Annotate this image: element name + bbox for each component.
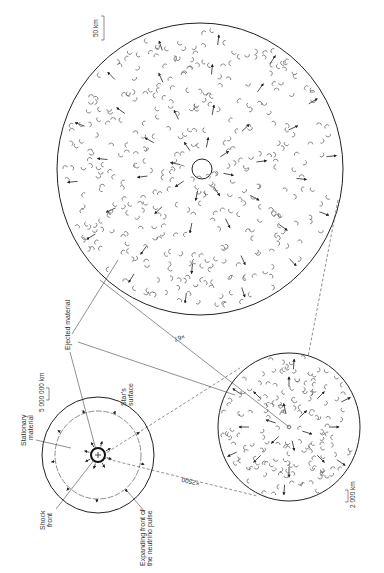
ejecta-blob-icon bbox=[271, 81, 276, 86]
ejecta-blob-icon bbox=[97, 107, 101, 112]
ejecta-blob-icon bbox=[302, 387, 305, 392]
ejecta-blob-icon bbox=[168, 106, 173, 108]
ejecta-blob-icon bbox=[324, 401, 328, 406]
ejecta-blob-icon bbox=[132, 286, 136, 291]
ejecta-blob-icon bbox=[163, 252, 167, 257]
arrow-icon bbox=[257, 84, 263, 92]
ejecta-blob-icon bbox=[297, 410, 302, 414]
ejecta-blob-icon bbox=[284, 127, 289, 132]
ejecta-blob-icon bbox=[272, 369, 277, 373]
ejecta-blob-icon bbox=[121, 92, 126, 97]
ejecta-blob-icon bbox=[340, 408, 344, 413]
ejecta-blob-icon bbox=[62, 165, 67, 169]
ejecta-blob-icon bbox=[320, 153, 325, 158]
ejecta-blob-icon bbox=[324, 124, 329, 129]
ejecta-blob-icon bbox=[278, 472, 283, 476]
ejecta-blob-icon bbox=[226, 402, 231, 406]
ejecta-blob-icon bbox=[134, 256, 138, 261]
arrow-icon bbox=[218, 35, 219, 45]
ejecta-blob-icon bbox=[324, 475, 329, 478]
ejecta-blob-icon bbox=[219, 294, 224, 299]
arrow-icon bbox=[141, 464, 144, 465]
ejecta-blob-icon bbox=[324, 369, 329, 373]
ejecta-blob-icon bbox=[209, 285, 214, 288]
ejecta-blob-icon bbox=[264, 409, 269, 413]
ejecta-blob-icon bbox=[325, 195, 330, 200]
ejecta-blob-icon bbox=[277, 235, 281, 240]
ejecta-blob-icon bbox=[257, 100, 262, 105]
arrow-icon bbox=[108, 72, 115, 79]
large-view: 50 km bbox=[57, 16, 343, 315]
ejecta-blob-icon bbox=[229, 428, 234, 432]
ejecta-blob-icon bbox=[81, 192, 85, 197]
ejecta-blob-icon bbox=[218, 74, 223, 79]
ejecta-blob-icon bbox=[341, 391, 346, 394]
scale-bar-50km: 50 km bbox=[92, 16, 104, 40]
ejecta-blob-icon bbox=[286, 244, 290, 249]
ejecta-blob-icon bbox=[289, 93, 294, 97]
ejecta-blob-icon bbox=[88, 94, 93, 97]
ejecta-blob-icon bbox=[289, 362, 294, 365]
ejecta-blob-icon bbox=[152, 206, 157, 211]
ejecta-blob-icon bbox=[272, 264, 274, 269]
ejecta-blob-icon bbox=[247, 389, 251, 391]
ejecta-blob-icon bbox=[143, 259, 148, 262]
ejecta-blob-icon bbox=[308, 461, 311, 466]
ejecta-blob-icon bbox=[65, 177, 70, 182]
ejecta-blob-icon bbox=[254, 54, 257, 59]
ejecta-blob-icon bbox=[198, 88, 202, 93]
ejecta-blob-icon bbox=[73, 144, 78, 149]
ejecta-blob-icon bbox=[255, 49, 258, 54]
ejecta-blob-icon bbox=[177, 285, 181, 290]
ejecta-blob-icon bbox=[196, 143, 199, 148]
ejecta-blob-icon bbox=[199, 264, 203, 269]
ejecta-blob-icon bbox=[330, 435, 333, 440]
arrow-icon bbox=[190, 223, 192, 233]
ejecta-blob-icon bbox=[227, 194, 232, 197]
ejecta-blob-icon bbox=[267, 111, 272, 116]
ejecta-blob-icon bbox=[262, 54, 267, 59]
ejecta-blob-icon bbox=[273, 458, 278, 461]
arrow-icon bbox=[102, 463, 104, 467]
ejecta-blob-icon bbox=[135, 52, 140, 57]
ejecta-blob-icon bbox=[133, 152, 138, 154]
ejecta-blob-icon bbox=[285, 123, 290, 128]
ejecta-blob-icon bbox=[227, 136, 231, 141]
arrow-icon bbox=[257, 161, 267, 162]
ejecta-blob-icon bbox=[164, 47, 169, 52]
ejecta-blob-icon bbox=[195, 62, 200, 67]
star-view: 5 000 000 km Star'ssurface Stationarymat… bbox=[20, 373, 154, 566]
arrow-icon bbox=[171, 163, 181, 165]
outward-arrows bbox=[68, 35, 337, 303]
ejecta-blob-icon bbox=[223, 140, 226, 145]
ejecta-blob-icon bbox=[340, 417, 343, 422]
ejecta-blob-icon bbox=[112, 202, 117, 207]
ejecta-blob-icon bbox=[277, 141, 281, 146]
ejecta-blob-icon bbox=[320, 446, 325, 450]
ejecta-blob-icon bbox=[207, 101, 212, 106]
arrow-icon bbox=[241, 256, 245, 265]
ejecta-blob-icon bbox=[292, 132, 295, 137]
arrow-icon bbox=[214, 187, 220, 195]
ejecta-blob-icon bbox=[251, 273, 256, 278]
ejecta-blob-icon bbox=[273, 159, 278, 162]
ejecta-blob-icon bbox=[238, 197, 243, 202]
ejecta-blob-icon bbox=[283, 458, 288, 462]
ejecta-blob-icon bbox=[187, 128, 192, 132]
ejecta-blob-icon bbox=[309, 219, 312, 224]
ejecta-blob-icon bbox=[233, 461, 237, 466]
ejecta-blob-icon bbox=[100, 226, 104, 231]
ejecta-blob-icon bbox=[138, 201, 143, 205]
ejecta-blob-icon bbox=[302, 450, 307, 453]
ejecta-blob-icon bbox=[193, 51, 198, 54]
ejecta-blob-icon bbox=[98, 245, 103, 250]
arrow-icon bbox=[254, 392, 261, 399]
ejecta-blob-icon bbox=[96, 167, 101, 171]
ejecta-blob-icon bbox=[292, 401, 297, 403]
ejecta-blob-icon bbox=[251, 236, 254, 241]
ejecta-blob-icon bbox=[153, 53, 158, 57]
ejecta-blob-icon bbox=[149, 291, 154, 296]
ejecta-blob-icon bbox=[138, 226, 143, 229]
ejecta-blob-icon bbox=[258, 380, 262, 385]
ejecta-blob-icon bbox=[269, 273, 274, 278]
